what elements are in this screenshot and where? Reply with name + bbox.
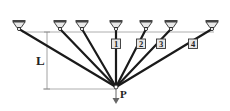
node-hinge bbox=[114, 85, 118, 89]
supports bbox=[13, 20, 219, 31]
bar-label-text: 1 bbox=[114, 39, 118, 49]
bar-label-text: 3 bbox=[159, 39, 163, 49]
bar-label-box: 2 bbox=[137, 39, 146, 49]
bar-label-box: 3 bbox=[157, 39, 166, 49]
bar-label-box: 1 bbox=[112, 39, 121, 49]
support-icon bbox=[206, 20, 219, 31]
load-arrow-icon bbox=[113, 98, 120, 104]
load-node: P bbox=[113, 85, 128, 104]
support-icon bbox=[13, 20, 26, 31]
dimension-label: L bbox=[36, 53, 45, 68]
bar-label-text: 2 bbox=[139, 39, 143, 49]
truss-diagram: L 1234 P bbox=[0, 0, 230, 111]
bars bbox=[19, 29, 212, 87]
support-icon bbox=[54, 20, 67, 31]
load-label: P bbox=[120, 88, 127, 100]
bar-label-box: 4 bbox=[189, 39, 198, 49]
support-icon bbox=[110, 20, 123, 31]
support-icon bbox=[165, 20, 178, 31]
support-icon bbox=[140, 20, 153, 31]
support-icon bbox=[76, 20, 89, 31]
